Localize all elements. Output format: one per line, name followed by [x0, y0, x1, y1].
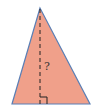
- height-label: ?: [44, 60, 50, 73]
- triangle-diagram: [0, 0, 106, 110]
- triangle: [12, 8, 90, 104]
